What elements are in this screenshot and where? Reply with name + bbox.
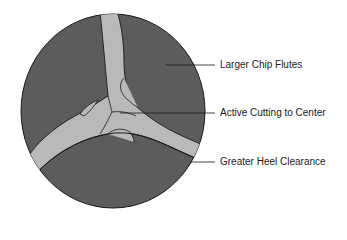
label-larger-chip-flutes: Larger Chip Flutes bbox=[220, 59, 302, 71]
label-greater-heel-clearance: Greater Heel Clearance bbox=[220, 156, 326, 168]
label-active-cutting-to-center: Active Cutting to Center bbox=[220, 107, 326, 119]
